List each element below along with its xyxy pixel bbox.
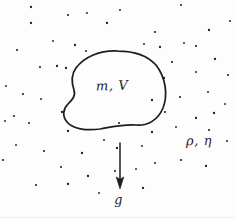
- fluid-particle-dot: [224, 103, 226, 105]
- fluid-particle-dot: [118, 122, 120, 124]
- fluid-particle-dot: [28, 122, 30, 124]
- fluid-particle-dot: [207, 91, 209, 93]
- fluid-particle-dot: [39, 66, 41, 68]
- fluid-particle-dot: [180, 159, 182, 161]
- fluid-particle-dot: [5, 85, 7, 87]
- fluid-particle-dot: [195, 117, 197, 119]
- fluid-particle-dot: [135, 168, 137, 170]
- fluid-particle-dot: [106, 22, 108, 24]
- fluid-particle-dot: [35, 184, 37, 186]
- diagram-canvas: [0, 0, 235, 218]
- fluid-particle-dot: [227, 74, 229, 76]
- fluid-particle-dot: [141, 145, 143, 147]
- fluid-particle-dot: [175, 126, 177, 128]
- gravity-label: g: [114, 192, 123, 207]
- body-mass-volume-label: m, V: [96, 78, 129, 94]
- fluid-particle-dot: [114, 170, 116, 172]
- fluid-particle-dot: [143, 43, 145, 45]
- fluid-particle-layer: [2, 4, 231, 194]
- fluid-particle-dot: [67, 130, 69, 132]
- fluid-particle-dot: [151, 131, 153, 133]
- fluid-particle-dot: [179, 96, 181, 98]
- fluid-particle-dot: [85, 50, 87, 52]
- fluid-particle-dot: [183, 42, 185, 44]
- fluid-particle-dot: [195, 45, 197, 47]
- fluid-particle-dot: [87, 175, 89, 177]
- fluid-particle-dot: [154, 31, 156, 33]
- fluid-particle-dot: [154, 162, 156, 164]
- fluid-particle-dot: [16, 49, 18, 51]
- fluid-particle-dot: [142, 187, 144, 189]
- fluid-particle-dot: [15, 144, 17, 146]
- fluid-particle-dot: [40, 98, 42, 100]
- fluid-particle-dot: [65, 67, 67, 69]
- gravity-arrow-group: [116, 143, 124, 189]
- fluid-particle-dot: [81, 152, 83, 154]
- fluid-particle-dot: [2, 159, 4, 161]
- fluid-particle-dot: [22, 93, 24, 95]
- fluid-particle-dot: [61, 111, 63, 113]
- fluid-particle-dot: [13, 115, 15, 117]
- physics-diagram-figure: m, V ρ, η g: [0, 0, 235, 218]
- fluid-particle-dot: [67, 14, 69, 16]
- fluid-particle-dot: [43, 150, 45, 152]
- fluid-particle-dot: [4, 120, 6, 122]
- fluid-particle-dot: [159, 46, 161, 48]
- fluid-particle-dot: [208, 29, 210, 31]
- fluid-particle-dot: [56, 65, 58, 67]
- fluid-particle-dot: [214, 58, 216, 60]
- fluid-particle-dot: [67, 183, 69, 185]
- fluid-density-viscosity-label: ρ, η: [186, 133, 212, 148]
- fluid-particle-dot: [116, 147, 118, 149]
- fluid-particle-dot: [52, 40, 54, 42]
- fluid-particle-dot: [226, 140, 228, 142]
- fluid-particle-dot: [86, 12, 88, 14]
- fluid-particle-dot: [208, 129, 210, 131]
- fluid-particle-dot: [30, 22, 32, 24]
- fluid-particle-dot: [164, 111, 166, 113]
- fluid-particle-dot: [229, 20, 231, 22]
- fluid-particle-dot: [195, 71, 197, 73]
- fluid-particle-dot: [205, 165, 207, 167]
- fluid-particle-dot: [60, 166, 62, 168]
- fluid-particle-dot: [103, 139, 105, 141]
- fluid-particle-dot: [151, 99, 153, 101]
- fluid-particle-dot: [119, 9, 121, 11]
- fluid-particle-dot: [30, 6, 32, 8]
- fluid-particle-dot: [74, 44, 76, 46]
- bottom-divider: [0, 217, 235, 218]
- fluid-particle-dot: [213, 112, 215, 114]
- fluid-particle-dot: [171, 61, 173, 63]
- fluid-particle-dot: [98, 192, 100, 194]
- fluid-particle-dot: [180, 4, 182, 6]
